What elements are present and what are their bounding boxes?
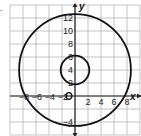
- x-tick-label: −8: [19, 92, 29, 102]
- y-axis-arrow-down-icon: [73, 133, 78, 136]
- problem-marker: .: [0, 3, 3, 13]
- x-tick-label: 6: [111, 97, 116, 107]
- x-tick-label: 2: [85, 97, 90, 107]
- x-axis-label: x: [129, 91, 136, 102]
- x-tick-label: 8: [124, 97, 129, 107]
- y-tick-label: 12: [63, 13, 73, 23]
- y-tick-label: 10: [63, 26, 73, 36]
- x-tick-label: −6: [32, 92, 42, 102]
- axes: [10, 3, 141, 136]
- y-axis-label: y: [78, 1, 85, 12]
- y-tick-label: 4: [68, 65, 73, 75]
- x-tick-label: −4: [45, 92, 55, 102]
- x-tick-label: 4: [98, 97, 103, 107]
- coordinate-graph: . −8−6−4−22468−424681012 x y O: [0, 0, 141, 136]
- origin-label: O: [65, 91, 73, 102]
- y-tick-label: 2: [68, 78, 73, 88]
- y-tick-label: −4: [63, 117, 73, 127]
- y-tick-label: 8: [68, 39, 73, 49]
- y-tick-label: 6: [68, 52, 73, 62]
